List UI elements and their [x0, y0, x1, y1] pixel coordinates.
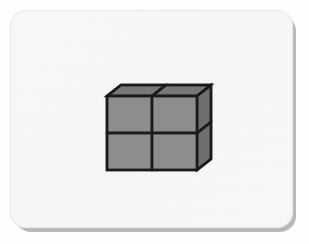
front-face-bottom-right	[152, 133, 197, 170]
cube-group	[107, 85, 211, 170]
front-face-top-left	[107, 96, 152, 133]
cube-stack-figure	[0, 0, 309, 244]
cube-stack-svg	[0, 0, 309, 244]
front-face-top-right	[152, 96, 197, 133]
front-face-bottom-left	[107, 133, 152, 170]
scene-stage	[0, 0, 309, 244]
